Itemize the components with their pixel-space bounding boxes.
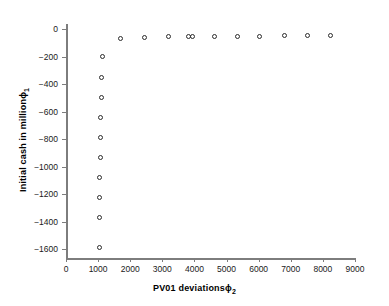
y-tick <box>62 112 66 113</box>
x-tick <box>259 258 260 262</box>
y-tick <box>62 29 66 30</box>
data-point <box>98 115 103 120</box>
x-axis-line <box>66 258 356 260</box>
y-axis-title-subscript: 1 <box>23 88 30 92</box>
data-point <box>98 135 103 140</box>
plot-area <box>66 24 355 258</box>
x-tick <box>323 258 324 262</box>
x-axis-title: PV01 deviationsϕ2 <box>0 283 389 295</box>
x-tick <box>130 258 131 262</box>
scatter-chart-figure: 0100020003000400050006000700080009000 0−… <box>0 0 389 306</box>
y-axis-title-symbol: ϕ <box>18 92 28 99</box>
x-tick <box>355 258 356 262</box>
y-tick <box>62 139 66 140</box>
data-point <box>97 215 102 220</box>
y-tick <box>62 222 66 223</box>
x-tick <box>291 258 292 262</box>
data-point <box>98 155 103 160</box>
y-tick <box>62 84 66 85</box>
x-tick <box>66 258 67 262</box>
y-tick <box>62 57 66 58</box>
data-point <box>99 95 104 100</box>
x-axis-title-text: PV01 deviations <box>153 283 225 293</box>
x-axis-title-symbol: ϕ <box>225 283 232 293</box>
x-tick-label: 9000 <box>335 264 375 274</box>
x-axis-title-subscript: 2 <box>232 288 236 295</box>
y-tick <box>62 249 66 250</box>
data-point <box>99 75 104 80</box>
y-axis-title-text: Initial cash in million <box>18 99 28 192</box>
data-point <box>97 245 102 250</box>
x-tick <box>162 258 163 262</box>
x-tick <box>194 258 195 262</box>
y-axis-line <box>66 24 68 259</box>
y-tick <box>62 194 66 195</box>
y-tick <box>62 167 66 168</box>
x-tick <box>227 258 228 262</box>
x-tick <box>98 258 99 262</box>
y-axis-title: Initial cash in millionϕ1 <box>18 30 30 250</box>
data-point <box>235 34 240 39</box>
